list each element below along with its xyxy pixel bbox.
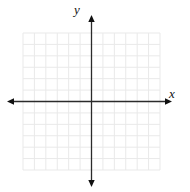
x-axis-label: x (169, 87, 175, 100)
y-axis-label: y (74, 3, 80, 16)
axes-grid-svg (0, 0, 190, 192)
coordinate-plane: y x (0, 0, 190, 192)
